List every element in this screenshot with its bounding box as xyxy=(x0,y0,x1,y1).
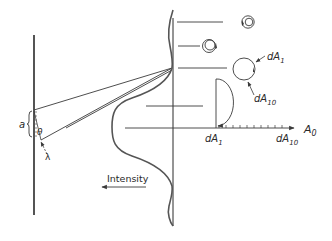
slit-width-label: a xyxy=(19,119,25,130)
phasor-line xyxy=(216,125,294,128)
resultant-label: A0 xyxy=(303,123,317,138)
circle-end-label: dA10 xyxy=(254,93,277,107)
phasor-spiral-second xyxy=(203,40,218,53)
line-end-label: dA10 xyxy=(276,133,299,147)
slit-width-brace xyxy=(27,111,32,137)
circle-start-label: dA1 xyxy=(267,51,285,65)
ray-bottom xyxy=(41,68,172,140)
phasor-spiral-top xyxy=(242,16,254,28)
phasor-circle xyxy=(233,56,265,95)
diffraction-diagram: a θ λ dA1 dA10 xyxy=(0,0,332,241)
phasor-semicircle xyxy=(216,79,233,128)
intensity-label: Intensity xyxy=(107,173,149,184)
wavelength-label: λ xyxy=(45,152,51,162)
intensity-curve xyxy=(112,10,173,226)
line-start-label: dA1 xyxy=(205,133,223,147)
ray-middle xyxy=(66,70,172,128)
